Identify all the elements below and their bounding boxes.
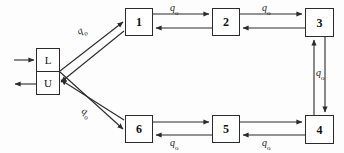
edge-label-3-4: qo xyxy=(316,67,325,81)
diagram-canvas: L U 1 2 3 4 5 6 qo qo qo qo qo qo qo xyxy=(0,0,344,153)
edge-1-to-U xyxy=(61,31,124,82)
lu-cell-U-label: U xyxy=(44,78,52,89)
lu-cell-L[interactable]: L xyxy=(37,49,59,72)
lu-cell-U[interactable]: U xyxy=(37,72,59,94)
edge-L-to-6 xyxy=(60,72,123,129)
lu-interface-box[interactable]: L U xyxy=(36,48,60,95)
node-3-label: 3 xyxy=(317,17,323,29)
lu-cell-L-label: L xyxy=(45,55,52,66)
node-3[interactable]: 3 xyxy=(305,8,334,37)
edge-label-2-3: qo xyxy=(262,2,271,16)
edge-label-1-2: qo xyxy=(170,2,179,16)
edge-L-to-1 xyxy=(60,22,123,71)
node-1[interactable]: 1 xyxy=(125,8,153,36)
node-4[interactable]: 4 xyxy=(305,115,334,144)
node-5-label: 5 xyxy=(223,123,229,135)
node-2-label: 2 xyxy=(223,16,229,28)
node-4-label: 4 xyxy=(317,124,323,136)
node-1-label: 1 xyxy=(136,16,142,28)
edge-6-to-U xyxy=(61,80,124,120)
node-2[interactable]: 2 xyxy=(212,8,240,36)
node-5[interactable]: 5 xyxy=(212,115,240,143)
node-6[interactable]: 6 xyxy=(125,115,153,143)
node-6-label: 6 xyxy=(136,123,142,135)
edge-label-4-5: qo xyxy=(262,137,271,151)
edge-label-5-6: qo xyxy=(170,137,179,151)
